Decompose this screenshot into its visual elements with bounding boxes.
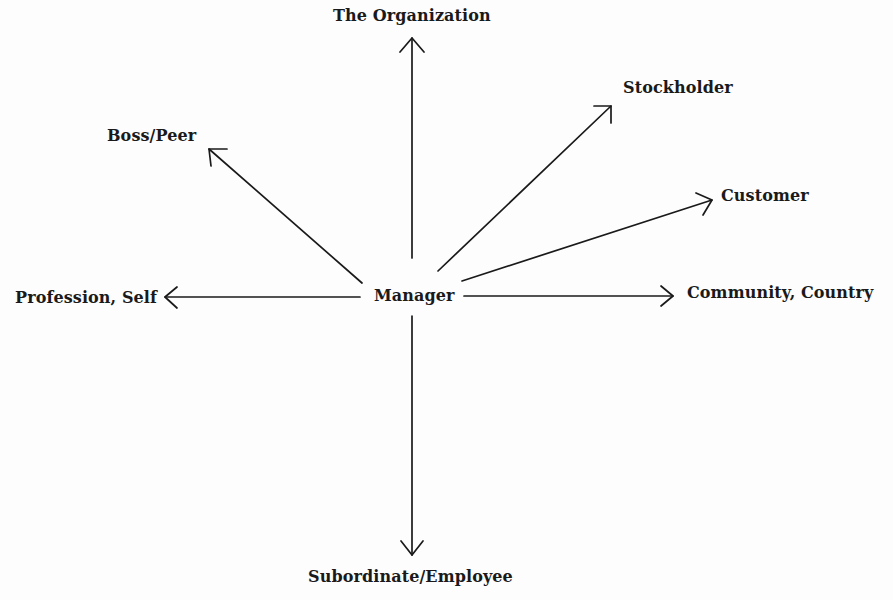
node-label-profession-self: Profession, Self xyxy=(15,288,157,307)
arrow-to-customer xyxy=(462,193,712,281)
node-label-boss-peer: Boss/Peer xyxy=(107,126,196,145)
arrow-to-subordinate-employee xyxy=(401,316,423,555)
arrow-to-community-country xyxy=(464,286,673,306)
center-label-manager: Manager xyxy=(374,286,455,305)
arrow-to-boss-peer xyxy=(209,149,362,283)
node-label-organization: The Organization xyxy=(333,6,491,25)
node-label-community-country: Community, Country xyxy=(687,283,874,302)
manager-stakeholder-diagram: The Organization Stockholder Boss/Peer C… xyxy=(0,0,893,600)
arrow-to-profession-self xyxy=(165,287,360,308)
node-label-customer: Customer xyxy=(721,186,809,205)
node-label-subordinate-employee: Subordinate/Employee xyxy=(308,567,513,586)
arrow-to-organization xyxy=(400,38,424,258)
arrow-to-stockholder xyxy=(438,106,611,271)
node-label-stockholder: Stockholder xyxy=(623,78,733,97)
